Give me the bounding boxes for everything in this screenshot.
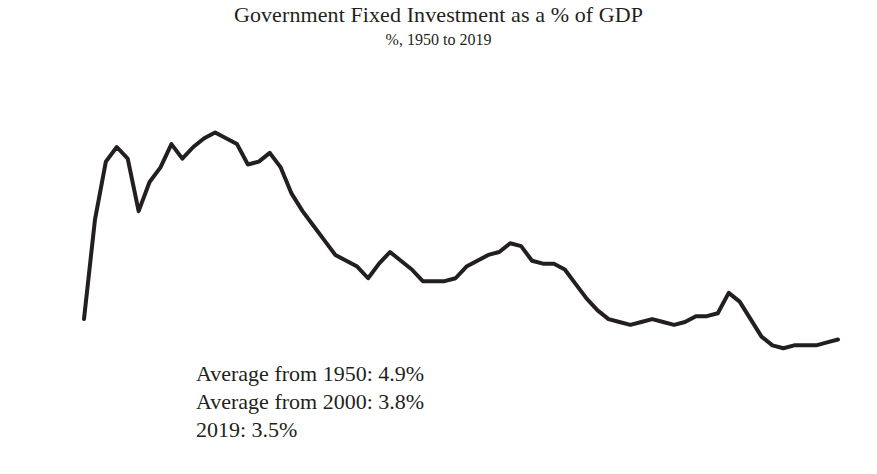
annotation-block: Average from 1950: 4.9% Average from 200…	[196, 360, 616, 444]
annotation-average-from-1950: Average from 1950: 4.9%	[196, 360, 616, 388]
annotation-latest-2019: 2019: 3.5%	[196, 416, 616, 444]
chart-root: Government Fixed Investment as a % of GD…	[0, 0, 877, 474]
annotation-average-from-2000: Average from 2000: 3.8%	[196, 388, 616, 416]
series-line-government-fixed-investment	[84, 132, 838, 348]
